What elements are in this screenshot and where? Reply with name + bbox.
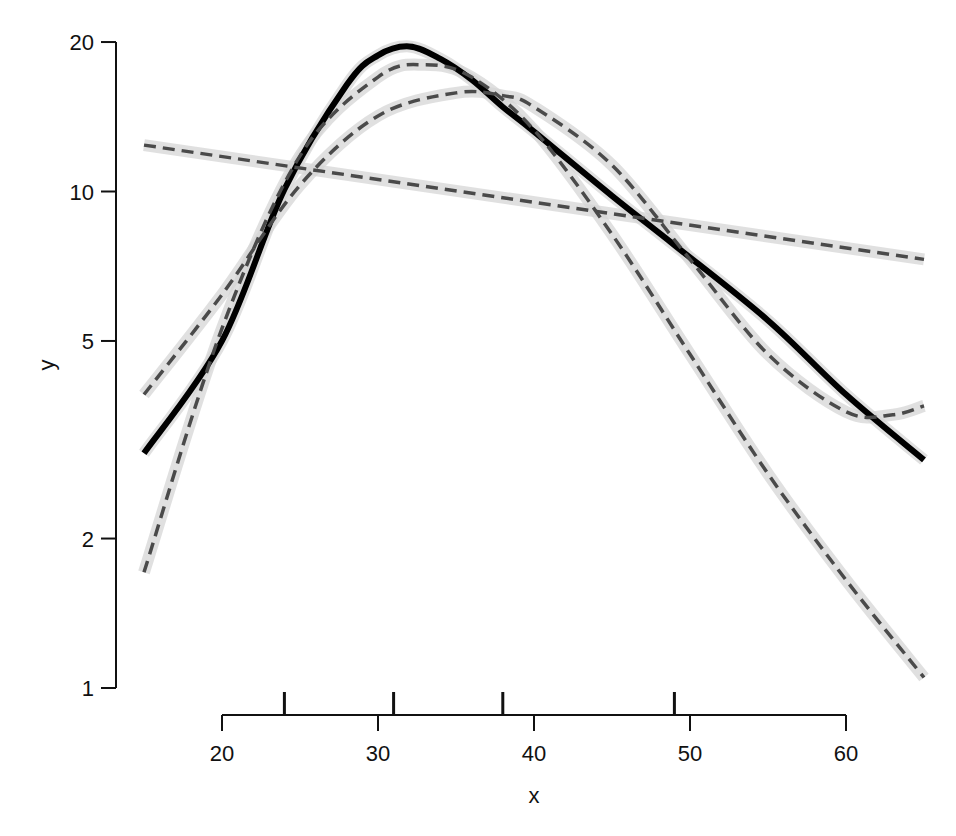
x-tick-label: 20 <box>210 741 234 766</box>
y-axis-title: y <box>34 360 59 371</box>
chart-canvas: 1251020 2030405060 x y <box>0 0 956 836</box>
y-tick-label: 20 <box>70 30 94 55</box>
knot-marks <box>284 692 674 715</box>
x-tick-label: 30 <box>366 741 390 766</box>
y-tick-label: 5 <box>82 329 94 354</box>
y-tick-label: 1 <box>82 676 94 701</box>
x-axis-title: x <box>529 783 540 808</box>
x-axis: 2030405060 <box>210 715 858 766</box>
confidence-bands <box>144 46 924 677</box>
y-tick-label: 10 <box>70 180 94 205</box>
y-axis: 1251020 <box>70 30 116 701</box>
x-tick-label: 40 <box>522 741 546 766</box>
y-tick-label: 2 <box>82 527 94 552</box>
x-tick-label: 60 <box>834 741 858 766</box>
x-tick-label: 50 <box>678 741 702 766</box>
